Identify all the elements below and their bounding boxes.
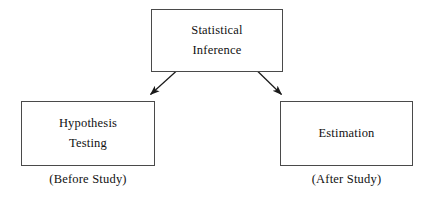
caption-hypothesis-testing: (Before Study) [21, 172, 155, 187]
diagram-canvas: Statistical Inference Hypothesis Testing… [0, 0, 429, 202]
node-statistical-inference: Statistical Inference [151, 9, 283, 72]
node-statistical-inference-line-2: Inference [193, 41, 242, 60]
node-estimation-line-1: Estimation [318, 124, 374, 143]
node-estimation: Estimation [280, 101, 413, 166]
node-hypothesis-testing: Hypothesis Testing [21, 101, 155, 166]
caption-estimation: (After Study) [280, 172, 413, 187]
node-statistical-inference-line-1: Statistical [191, 21, 243, 40]
node-hypothesis-testing-line-2: Testing [69, 134, 107, 153]
node-hypothesis-testing-line-1: Hypothesis [59, 114, 117, 133]
